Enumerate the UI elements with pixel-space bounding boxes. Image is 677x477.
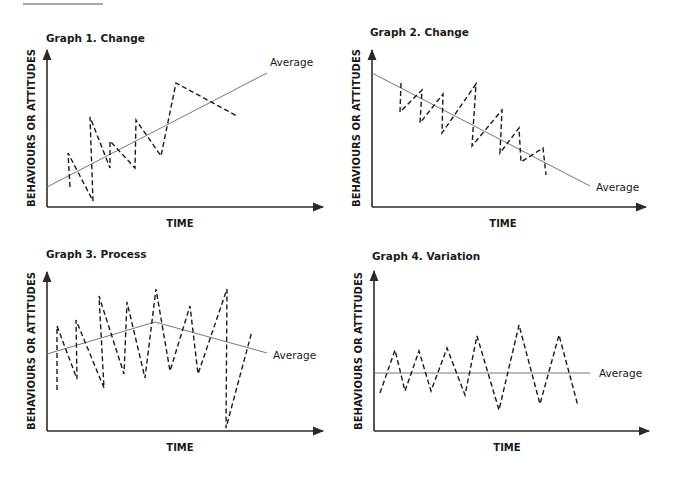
y-axis-label: BEHAVIOURS OR ATTITUDES xyxy=(353,272,364,430)
data-series-line xyxy=(68,83,237,201)
y-axis-label: BEHAVIOURS OR ATTITUDES xyxy=(351,49,362,207)
average-line xyxy=(47,73,267,187)
y-axis-label: BEHAVIOURS OR ATTITUDES xyxy=(26,272,37,430)
graph-title: Graph 2. Change xyxy=(370,26,469,38)
average-line xyxy=(372,73,590,186)
graph-3: Graph 3. ProcessBEHAVIOURS OR ATTITUDEST… xyxy=(26,248,323,453)
figure-canvas: Graph 1. ChangeBEHAVIOURS OR ATTITUDESTI… xyxy=(0,0,677,477)
data-series-line xyxy=(57,289,252,428)
y-axis-label: BEHAVIOURS OR ATTITUDES xyxy=(26,49,37,207)
graph-2: Graph 2. ChangeBEHAVIOURS OR ATTITUDESTI… xyxy=(351,26,646,229)
x-axis-label: TIME xyxy=(493,442,520,453)
graph-title: Graph 1. Change xyxy=(46,32,145,44)
average-line xyxy=(47,322,267,354)
graph-title: Graph 3. Process xyxy=(46,248,146,260)
x-axis-label: TIME xyxy=(166,218,193,229)
data-series-line xyxy=(400,83,546,175)
graph-title: Graph 4. Variation xyxy=(372,250,480,262)
average-label: Average xyxy=(599,367,642,379)
x-axis-label: TIME xyxy=(166,442,193,453)
average-label: Average xyxy=(270,56,313,68)
data-series-line xyxy=(380,325,578,410)
x-axis-label: TIME xyxy=(489,218,516,229)
average-label: Average xyxy=(273,349,316,361)
average-label: Average xyxy=(596,181,639,193)
graph-1: Graph 1. ChangeBEHAVIOURS OR ATTITUDESTI… xyxy=(26,32,323,229)
graph-4: Graph 4. VariationBEHAVIOURS OR ATTITUDE… xyxy=(353,250,649,453)
